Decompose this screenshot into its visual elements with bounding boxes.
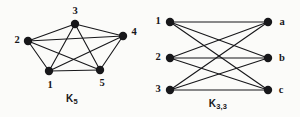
vertex-label-3: 3 bbox=[155, 84, 160, 95]
graph-vertex-2 bbox=[24, 37, 32, 45]
vertex-label-b: b bbox=[279, 53, 285, 64]
graph-vertex-1 bbox=[45, 67, 53, 75]
vertex-label-1: 1 bbox=[47, 80, 52, 91]
caption-subscript: 5 bbox=[74, 97, 78, 106]
graph-canvas bbox=[0, 0, 300, 117]
complete-graph-k5-edges bbox=[28, 24, 123, 71]
graph-vertex-4 bbox=[119, 32, 127, 40]
graph-vertex-5 bbox=[96, 66, 104, 74]
graph-vertex-3 bbox=[71, 20, 79, 28]
complete-bipartite-graph-k33-edges bbox=[170, 22, 268, 90]
vertex-label-2: 2 bbox=[14, 35, 19, 46]
complete-graph-k5-caption: K5 bbox=[66, 94, 78, 104]
vertex-label-c: c bbox=[279, 85, 284, 96]
vertex-label-a: a bbox=[279, 17, 284, 28]
graph-edge bbox=[75, 24, 123, 36]
graph-edge bbox=[49, 70, 100, 71]
complete-bipartite-graph-k33-caption: K3,3 bbox=[209, 99, 227, 109]
graph-vertex-c bbox=[264, 86, 272, 94]
vertex-label-5: 5 bbox=[99, 78, 104, 89]
graph-edge bbox=[28, 36, 123, 41]
edges-layer bbox=[28, 22, 268, 90]
graph-vertex-1 bbox=[166, 18, 174, 26]
vertex-label-4: 4 bbox=[131, 27, 136, 38]
caption-subscript: 3,3 bbox=[216, 102, 227, 111]
graph-vertex-b bbox=[264, 54, 272, 62]
graph-vertex-2 bbox=[166, 54, 174, 62]
vertex-label-2: 2 bbox=[155, 52, 160, 63]
complete-graph-k5-vertices bbox=[24, 20, 127, 75]
vertex-label-3: 3 bbox=[72, 6, 77, 17]
graph-edge bbox=[75, 24, 100, 70]
graph-vertex-3 bbox=[166, 86, 174, 94]
graph-vertex-a bbox=[264, 18, 272, 26]
graph-figure: 12345K5123abcK3,3 bbox=[0, 0, 300, 117]
vertex-label-1: 1 bbox=[155, 16, 160, 27]
graph-edge bbox=[49, 24, 75, 71]
